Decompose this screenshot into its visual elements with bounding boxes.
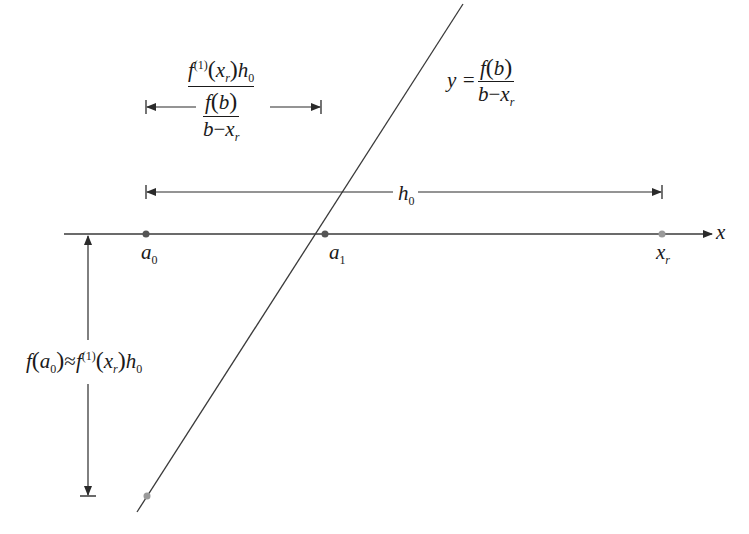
- b-symbol: b: [494, 56, 505, 80]
- r-subscript: r: [235, 130, 240, 144]
- point-a0: [143, 231, 150, 238]
- zero-subscript: 0: [248, 71, 254, 85]
- a1-base: a: [329, 240, 340, 264]
- step-inner-fraction: f(b) b−xr: [203, 88, 239, 144]
- a-symbol: a: [40, 349, 51, 373]
- h0-sub: 0: [409, 194, 415, 208]
- line-equation-fraction: f(b) b−xr: [478, 54, 514, 110]
- xr-base: x: [656, 240, 665, 264]
- point-xr: [659, 231, 666, 238]
- point-f-a0: [144, 493, 151, 500]
- a0-label: a0: [141, 242, 158, 266]
- h-symbol: h: [126, 349, 137, 373]
- step-inner-numerator: f(b): [205, 88, 237, 114]
- h0-base: h: [398, 181, 409, 205]
- minus-symbol: −: [214, 117, 226, 141]
- b-symbol: b: [478, 82, 489, 106]
- r-subscript: r: [510, 95, 515, 109]
- zero-subscript: 0: [136, 362, 142, 376]
- a0-sub: 0: [152, 253, 158, 267]
- diagram-canvas: [0, 0, 749, 534]
- x-symbol: x: [225, 117, 234, 141]
- step-inner-denominator: b−xr: [203, 118, 239, 144]
- point-a1: [322, 231, 329, 238]
- derivative-order: (1): [82, 349, 96, 363]
- x-symbol: x: [216, 58, 225, 82]
- a0-base: a: [141, 240, 152, 264]
- minus-symbol: −: [489, 82, 501, 106]
- h0-label: h0: [398, 183, 415, 207]
- x-symbol: x: [104, 349, 113, 373]
- secant-line: [137, 4, 463, 512]
- b-symbol: b: [219, 90, 230, 114]
- line-equation-denominator: b−xr: [478, 83, 514, 109]
- b-symbol: b: [203, 117, 214, 141]
- xr-sub: r: [665, 253, 670, 267]
- x-axis-label: x: [716, 222, 725, 243]
- step-dimension-fraction: f(1)(xr)h0 f(b) b−xr: [188, 56, 254, 144]
- a1-label: a1: [329, 242, 346, 266]
- a1-sub: 1: [340, 253, 346, 267]
- line-equation-lhs: y =: [447, 70, 476, 91]
- fa0-approx-label: f(a0)≈f(1)(xr)h0: [26, 348, 142, 375]
- h-symbol: h: [238, 58, 249, 82]
- fraction-bar-outer: [188, 86, 254, 87]
- approx-symbol: ≈: [64, 349, 76, 373]
- step-numerator: f(1)(xr)h0: [188, 56, 254, 85]
- derivative-order: (1): [194, 58, 208, 72]
- line-equation-numerator: f(b): [480, 54, 512, 80]
- x-symbol: x: [500, 82, 509, 106]
- xr-label: xr: [656, 242, 670, 266]
